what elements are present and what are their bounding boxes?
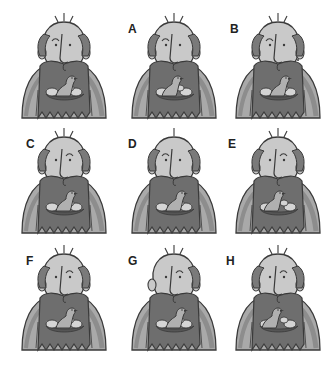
bearded-man-icon: [14, 8, 114, 126]
bearded-man-illustration: [228, 8, 328, 126]
bearded-man-icon: [124, 240, 224, 358]
bearded-man-illustration: [124, 8, 224, 126]
bearded-man-icon: [124, 123, 224, 241]
bearded-man-illustration: [14, 240, 114, 358]
option-e[interactable]: E: [222, 123, 334, 243]
bearded-man-icon: [228, 123, 328, 241]
bearded-man-icon: [14, 123, 114, 241]
bearded-man-illustration: [228, 123, 328, 241]
bearded-man-illustration: [14, 8, 114, 126]
bearded-man-icon: [228, 240, 328, 358]
bearded-man-illustration: [228, 240, 328, 358]
bearded-man-illustration: [124, 240, 224, 358]
bearded-man-icon: [124, 8, 224, 126]
option-g[interactable]: G: [114, 240, 226, 360]
bearded-man-illustration: [14, 123, 114, 241]
bearded-man-illustration: [124, 123, 224, 241]
option-a[interactable]: A: [114, 8, 226, 128]
option-b[interactable]: B: [222, 8, 334, 128]
option-h[interactable]: H: [222, 240, 334, 360]
puzzle-grid: A B C D E F G: [0, 0, 335, 382]
option-f[interactable]: F: [4, 240, 116, 360]
option-d[interactable]: D: [114, 123, 226, 243]
option-c[interactable]: C: [4, 123, 116, 243]
bearded-man-icon: [228, 8, 328, 126]
original-figure[interactable]: [4, 8, 116, 128]
bearded-man-icon: [14, 240, 114, 358]
